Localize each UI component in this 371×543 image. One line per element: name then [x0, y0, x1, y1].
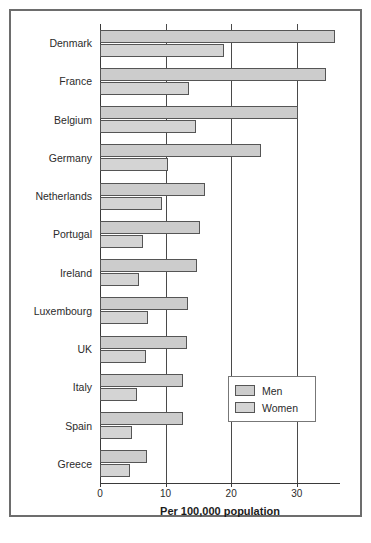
bar-group — [100, 139, 340, 177]
x-tick-30 — [297, 483, 298, 487]
x-axis-title: Per 100,000 population — [100, 505, 340, 517]
bar-men-germany — [100, 144, 261, 157]
category-label-italy: Italy — [73, 381, 92, 393]
bar-women-italy — [100, 388, 137, 401]
x-tick-10 — [166, 483, 167, 487]
bar-group — [100, 215, 340, 253]
category-label-belgium: Belgium — [54, 114, 92, 126]
bar-men-ireland — [100, 259, 197, 272]
bar-group — [100, 292, 340, 330]
bar-women-france — [100, 82, 189, 95]
bar-women-spain — [100, 426, 132, 439]
bar-men-netherlands — [100, 183, 205, 196]
category-label-spain: Spain — [65, 420, 92, 432]
bar-men-denmark — [100, 30, 335, 43]
bar-women-ireland — [100, 273, 139, 286]
bar-group — [100, 445, 340, 483]
legend-item-women[interactable]: Women — [235, 399, 309, 416]
bar-men-spain — [100, 412, 183, 425]
bar-group — [100, 62, 340, 100]
bar-men-luxembourg — [100, 297, 188, 310]
legend-label-men: Men — [262, 385, 282, 397]
bar-women-denmark — [100, 44, 224, 57]
category-label-ireland: Ireland — [60, 267, 92, 279]
bar-women-netherlands — [100, 197, 162, 210]
x-tick-0 — [100, 483, 101, 487]
x-tick-label-10: 10 — [160, 488, 171, 499]
bar-women-uk — [100, 350, 146, 363]
x-axis-line — [100, 483, 340, 484]
bar-women-germany — [100, 158, 168, 171]
legend-item-men[interactable]: Men — [235, 382, 309, 399]
category-label-greece: Greece — [58, 458, 92, 470]
bar-women-belgium — [100, 120, 196, 133]
bar-group — [100, 101, 340, 139]
category-label-portugal: Portugal — [53, 228, 92, 240]
bar-women-greece — [100, 464, 130, 477]
chart-figure: 0102030Per 100,000 populationDenmarkFran… — [0, 0, 371, 543]
bar-group — [100, 24, 340, 62]
x-tick-20 — [231, 483, 232, 487]
bar-women-portugal — [100, 235, 143, 248]
x-tick-label-0: 0 — [97, 488, 103, 499]
category-label-netherlands: Netherlands — [35, 190, 92, 202]
bar-men-portugal — [100, 221, 200, 234]
legend-swatch-women — [235, 402, 255, 413]
category-label-france: France — [59, 75, 92, 87]
bar-men-italy — [100, 374, 183, 387]
bar-men-france — [100, 68, 326, 81]
x-tick-label-30: 30 — [291, 488, 302, 499]
bar-men-uk — [100, 336, 187, 349]
x-tick-label-20: 20 — [226, 488, 237, 499]
bar-men-greece — [100, 450, 147, 463]
bar-group — [100, 330, 340, 368]
category-label-uk: UK — [77, 343, 92, 355]
bar-women-luxembourg — [100, 311, 148, 324]
category-label-germany: Germany — [49, 152, 92, 164]
legend-swatch-men — [235, 385, 255, 396]
category-label-denmark: Denmark — [49, 37, 92, 49]
bar-group — [100, 254, 340, 292]
bar-group — [100, 177, 340, 215]
chart-legend: MenWomen — [228, 376, 316, 422]
category-label-luxembourg: Luxembourg — [34, 305, 92, 317]
bar-men-belgium — [100, 106, 298, 119]
legend-label-women: Women — [262, 402, 298, 414]
